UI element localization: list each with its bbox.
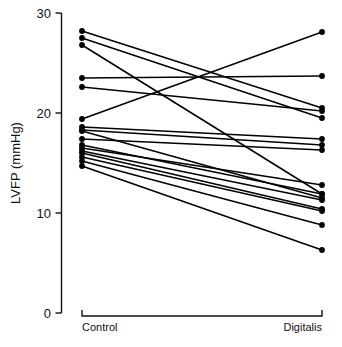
data-point-marker [79,163,85,169]
series-line [82,31,322,108]
series-line [82,87,322,111]
series-line [82,166,322,250]
x-axis-label-control: Control [82,321,117,333]
y-tick-label: 20 [37,106,51,121]
data-point-marker [319,73,325,79]
data-point-marker [319,136,325,142]
data-point-marker [319,208,325,214]
x-axis-label-digitalis: Digitalis [283,321,322,333]
series-line [82,45,322,194]
data-point-marker [319,29,325,35]
y-axis-ticks [56,13,62,313]
data-point-marker [319,247,325,253]
data-point-marker [79,84,85,90]
y-tick-label: 30 [37,6,51,21]
y-axis-title: LVFP (mmHg) [8,122,23,204]
series-line [82,148,322,185]
series-line [82,139,322,150]
data-point-marker [79,28,85,34]
data-point-marker [79,136,85,142]
data-point-marker [319,142,325,148]
data-point-marker [319,108,325,114]
bracket-path [82,310,322,316]
data-point-marker [79,42,85,48]
data-point-marker [319,182,325,188]
data-point-marker [79,35,85,41]
data-point-marker [79,158,85,164]
series-line [82,76,322,78]
data-point-marker [319,197,325,203]
y-tick-label: 10 [37,206,51,221]
series-line [82,153,322,209]
slope-chart-canvas: 0102030 Control Digitalis LVFP (mmHg) [0,0,342,347]
data-point-marker [79,116,85,122]
y-axis: 0102030 [37,6,62,321]
y-axis-tick-labels: 0102030 [37,6,51,321]
y-tick-label: 0 [44,306,51,321]
data-point-marker [319,115,325,121]
data-point-marker [79,128,85,134]
chart-figure: 0102030 Control Digitalis LVFP (mmHg) [0,0,342,347]
series-lines-and-markers [79,28,325,253]
data-point-marker [319,147,325,153]
data-point-marker [79,75,85,81]
series-line [82,145,322,194]
x-axis-bracket [82,310,322,316]
data-point-marker [319,222,325,228]
data-point-marker [319,191,325,197]
